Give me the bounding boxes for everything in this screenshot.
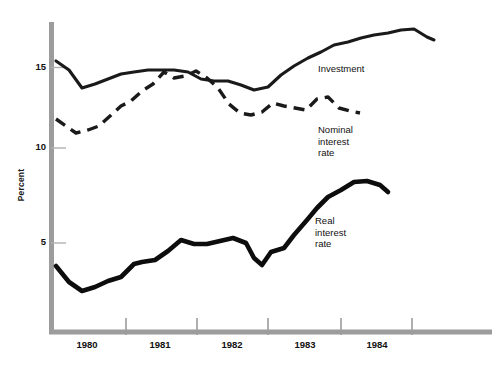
x-tick-label-1984: 1984 [347,339,407,350]
series-investment [56,29,434,90]
x-tick-label-1982: 1982 [202,339,262,350]
axis-lines [49,22,492,333]
y-tick-label-10: 10 [22,141,46,152]
y-axis-title: Percent [16,169,26,202]
chart-figure: Percent 15 10 5 1980 1981 1982 1983 1984… [0,0,496,366]
x-tick-label-1981: 1981 [130,339,190,350]
series-label-investment: Investment [318,63,364,75]
y-tick-label-15: 15 [22,61,46,72]
x-tick-label-1980: 1980 [57,339,117,350]
y-tick-label-5: 5 [22,236,46,247]
chart-plot-area [0,0,496,366]
series-label-real-interest-rate: Real interest rate [315,215,346,250]
x-tick-label-1983: 1983 [275,339,335,350]
series-label-nominal-interest-rate: Nominal interest rate [318,124,353,159]
